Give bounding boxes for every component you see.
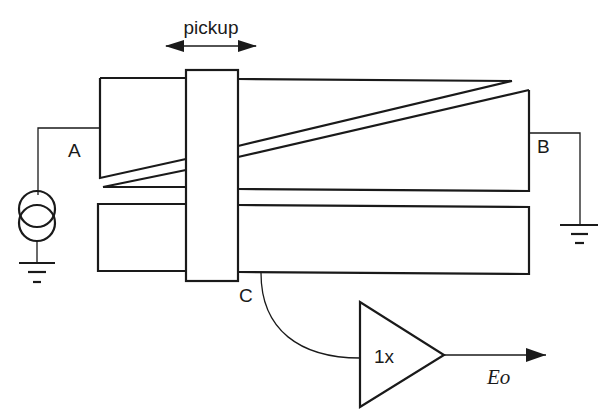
pickup-slider[interactable] xyxy=(186,70,238,281)
buffer-amplifier xyxy=(360,302,444,407)
sensor-diagram: pickup A B C xyxy=(0,0,606,418)
node-a-label: A xyxy=(68,140,81,161)
node-c-label: C xyxy=(239,285,253,306)
ground-icon xyxy=(19,263,55,282)
buffer-gain-label: 1x xyxy=(374,346,395,367)
pickup-travel-arrow-icon xyxy=(165,40,257,52)
upper-resistive-element xyxy=(100,78,529,191)
wire-a xyxy=(38,128,100,195)
wire-c xyxy=(261,273,360,358)
output-label: Eo xyxy=(486,365,510,389)
node-b-label: B xyxy=(537,136,550,157)
output-arrow-icon xyxy=(526,348,546,362)
lower-collector-strip xyxy=(98,204,529,274)
current-source-icon xyxy=(19,191,55,262)
pickup-label: pickup xyxy=(184,17,239,38)
ground-icon xyxy=(560,225,598,243)
